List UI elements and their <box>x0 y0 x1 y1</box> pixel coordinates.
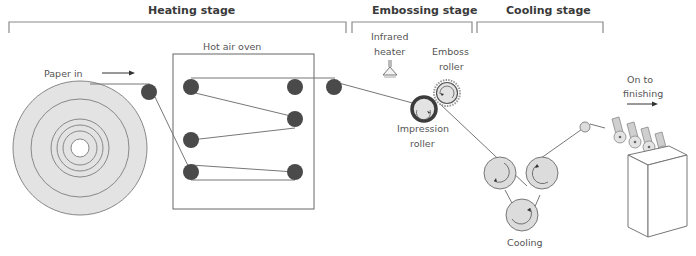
idler-roller <box>580 122 590 132</box>
finished-roll <box>612 117 626 143</box>
stage-brackets <box>9 22 603 33</box>
oven-roller <box>287 79 303 95</box>
oven-roller <box>287 111 303 127</box>
hot-air-oven-box <box>173 54 314 209</box>
cooling-rollers <box>484 157 558 231</box>
output-box <box>628 146 687 237</box>
embossing-stage-bracket <box>352 22 472 33</box>
heating-stage-bracket <box>9 22 346 33</box>
process-diagram <box>0 0 696 256</box>
paper-in-arrow-icon <box>102 71 135 76</box>
exit-roller <box>326 79 342 95</box>
guide-roller <box>141 84 157 100</box>
oven-roller <box>287 164 303 180</box>
paper-web-path <box>90 78 605 218</box>
oven-roller <box>183 79 199 95</box>
emboss-roller <box>434 80 460 106</box>
cooling-roller-bottom <box>506 199 538 231</box>
on-to-finishing-arrow-icon <box>627 102 658 107</box>
finished-roll <box>627 122 641 148</box>
paper-roll <box>13 81 147 215</box>
impression-roller <box>412 97 436 121</box>
infrared-heater-icon <box>383 60 397 77</box>
cooling-stage-bracket <box>477 22 603 33</box>
oven-roller <box>183 164 199 180</box>
cooling-roller-left <box>484 157 516 189</box>
cooling-roller-right <box>526 157 558 189</box>
oven-roller <box>183 132 199 148</box>
